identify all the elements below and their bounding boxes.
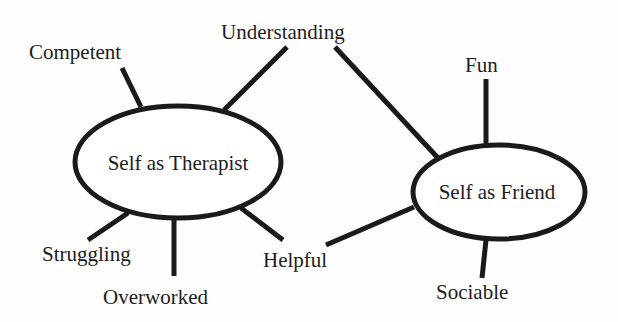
attr-sociable: Sociable <box>436 280 508 304</box>
attr-struggling: Struggling <box>42 242 131 266</box>
attr-understanding: Understanding <box>221 20 345 44</box>
edge-therapist-understanding <box>224 47 287 110</box>
attr-overworked: Overworked <box>103 285 208 309</box>
friend-label: Self as Friend <box>439 180 556 204</box>
edge-therapist-competent <box>122 68 141 107</box>
therapist-label: Self as Therapist <box>108 151 249 175</box>
edge-friend-helpful <box>326 207 414 245</box>
node-self-as-therapist: Self as Therapist <box>75 106 281 218</box>
edge-therapist-helpful <box>241 208 283 240</box>
edge-friend-sociable <box>482 240 486 278</box>
attr-competent: Competent <box>29 40 121 64</box>
edge-therapist-struggling <box>88 213 128 240</box>
attr-helpful: Helpful <box>263 248 327 272</box>
node-self-as-friend: Self as Friend <box>413 145 585 239</box>
diagram-canvas: Self as Therapist Self as Friend Compete… <box>0 0 618 322</box>
edge-friend-understanding <box>335 47 438 158</box>
attr-fun: Fun <box>465 53 498 77</box>
concept-map-diagram: Self as Therapist Self as Friend Compete… <box>0 0 618 322</box>
